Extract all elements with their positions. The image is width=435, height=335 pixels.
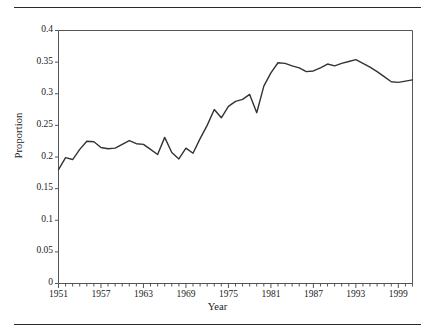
y-axis-title: Proportion: [13, 96, 24, 176]
x-axis-title: Year: [0, 301, 435, 312]
chart-figure: 00.050.10.150.20.250.30.350.4 1951195719…: [0, 0, 435, 335]
x-tick-label: 1969: [164, 289, 208, 299]
line-chart-svg: [0, 0, 435, 335]
x-tick-label: 1987: [291, 289, 335, 299]
x-tick-label: 1963: [121, 289, 165, 299]
y-tick-label: 0.4: [6, 24, 53, 34]
x-tick-label: 1999: [376, 289, 420, 299]
plot-area: 00.050.10.150.20.250.30.350.4 1951195719…: [0, 0, 435, 335]
y-tick-label: 0: [6, 277, 53, 287]
y-axis-ticks: [55, 31, 59, 284]
x-tick-label: 1951: [37, 289, 81, 299]
data-series-line: [59, 60, 413, 170]
x-axis-ticks: [59, 284, 413, 289]
y-tick-label: 0.05: [6, 245, 53, 255]
x-tick-label: 1993: [334, 289, 378, 299]
x-tick-label: 1975: [206, 289, 250, 299]
y-tick-label: 0.35: [6, 56, 53, 66]
x-tick-label: 1981: [249, 289, 293, 299]
y-tick-label: 0.15: [6, 182, 53, 192]
y-tick-label: 0.1: [6, 214, 53, 224]
axes-frame: [59, 31, 413, 284]
x-tick-label: 1957: [79, 289, 123, 299]
